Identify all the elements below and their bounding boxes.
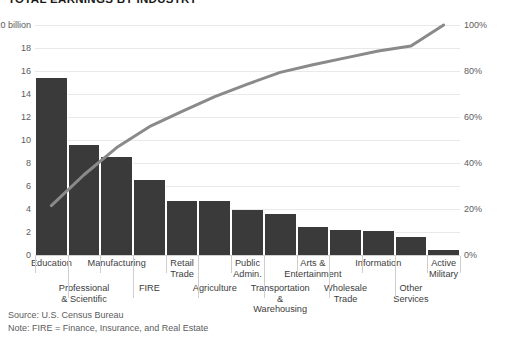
x-axis-label: Agriculture [181,283,248,294]
x-axis-tick [297,256,298,273]
x-axis-tick [264,256,265,298]
y-axis-right-tick: 80% [464,66,482,76]
x-axis-tick [329,256,330,298]
x-axis-tick [133,256,134,298]
x-axis-label: Transportation & Warehousing [247,283,314,315]
x-axis-label: Education [18,258,85,269]
y-axis-left-tick: 10 [21,135,31,145]
x-axis-label: Professional & Scientific [51,283,118,304]
y-axis-left-tick: 6 [26,181,31,191]
y-axis-right: 100%80%60%40%20%0% [464,25,512,255]
y-axis-right-tick: 60% [464,112,482,122]
x-axis-label: Other Services [378,283,445,304]
definition-note: Note: FIRE = Finance, Insurance, and Rea… [8,322,208,335]
x-axis-tick [68,256,69,298]
plot-area [35,25,460,255]
source-note: Source: U.S. Census Bureau [8,309,208,322]
x-axis-label: Public Admin. [214,258,281,279]
y-axis-left-tick: 4 [26,204,31,214]
x-axis-label: FIRE [116,283,183,294]
x-axis-tick [100,256,101,273]
cumulative-line-series [35,25,460,255]
x-axis-tick [427,256,428,273]
y-axis-left-tick: 2 [26,227,31,237]
x-axis-label: Information [345,258,412,269]
x-axis-tick [35,256,36,273]
y-axis-left-tick: $20 billion [0,20,31,30]
y-axis-right-tick: 40% [464,158,482,168]
x-axis-label: Retail Trade [149,258,216,279]
y-axis-left-tick: 16 [21,66,31,76]
chart-title: TOTAL EARNINGS BY INDUSTRY [8,0,197,5]
x-axis-tick [362,256,363,273]
x-axis-label: Manufacturing [83,258,150,269]
y-axis-right-tick: 20% [464,204,482,214]
y-axis-left-tick: 18 [21,43,31,53]
y-axis-left-tick: 8 [26,158,31,168]
y-axis-left-tick: 12 [21,112,31,122]
y-axis-right-tick: 100% [464,20,487,30]
x-axis-label: Arts & Entertainment [280,258,347,279]
x-axis-tick [395,256,396,298]
chart-container: TOTAL EARNINGS BY INDUSTRY $20 billion18… [0,0,514,343]
y-axis-left-tick: 14 [21,89,31,99]
chart-footnotes: Source: U.S. Census Bureau Note: FIRE = … [8,309,208,334]
y-axis-left: $20 billion181614121086420 [0,25,31,255]
x-axis-tick [198,256,199,298]
x-axis-label: Active Military [410,258,477,279]
x-axis-tick [166,256,167,273]
x-axis-tick [460,256,461,273]
x-axis-label: Wholesale Trade [312,283,379,304]
x-axis-tick [231,256,232,273]
x-axis-categories: EducationProfessional & ScientificManufa… [35,256,460,304]
